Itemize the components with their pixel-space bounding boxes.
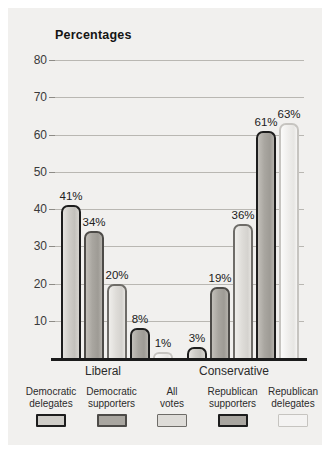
legend-swatch [36, 414, 66, 427]
legend-item[interactable]: Republicandelegates [264, 386, 322, 427]
legend-item[interactable]: Democraticsupporters [83, 386, 141, 427]
legend-label-line1: Republican [204, 386, 262, 398]
bar-value-label: 36% [231, 209, 254, 221]
bar: 34% [84, 231, 104, 358]
legend-item[interactable]: Democraticdelegates [22, 386, 80, 427]
legend-item[interactable]: Republicansupporters [204, 386, 262, 427]
legend: DemocraticdelegatesDemocraticsupportersA… [22, 386, 322, 427]
bar: 8% [130, 328, 150, 358]
axis-baseline [51, 358, 307, 361]
y-axis-tick-label: 80 [13, 55, 47, 65]
bar-value-label: 19% [208, 272, 231, 284]
y-tick-mark [49, 60, 55, 61]
legend-label-line2: delegates [22, 398, 80, 410]
legend-label-line2: supporters [83, 398, 141, 410]
legend-swatch [97, 414, 127, 427]
legend-swatch [157, 414, 187, 427]
y-axis-tick-label: 30 [13, 241, 47, 251]
y-axis-tick-label: 50 [13, 167, 47, 177]
bar-value-label: 8% [132, 313, 149, 325]
y-tick-mark [49, 321, 55, 322]
legend-label-line1: Democratic [22, 386, 80, 398]
bar: 63% [279, 123, 299, 358]
y-tick-mark [49, 172, 55, 173]
legend-label-line1: All [143, 386, 201, 398]
legend-swatch [278, 414, 308, 427]
legend-label-line2: votes [143, 398, 201, 410]
bar: 20% [107, 284, 127, 359]
y-axis-tick-label: 20 [13, 279, 47, 289]
bar-value-label: 3% [189, 332, 206, 344]
legend-swatch [218, 414, 248, 427]
bar-value-label: 20% [105, 269, 128, 281]
y-axis-tick-label: 60 [13, 130, 47, 140]
bar: 19% [210, 287, 230, 358]
y-tick-mark [49, 135, 55, 136]
y-tick-mark [49, 209, 55, 210]
gridline [55, 60, 304, 61]
bar-value-label: 41% [59, 190, 82, 202]
legend-item[interactable]: Allvotes [143, 386, 201, 427]
bar: 36% [233, 224, 253, 358]
bar: 61% [256, 131, 276, 358]
legend-label-line2: supporters [204, 398, 262, 410]
legend-label-line1: Republican [264, 386, 322, 398]
bar-value-label: 61% [254, 116, 277, 128]
y-axis-tick-label: 10 [13, 316, 47, 326]
bar-value-label: 34% [82, 216, 105, 228]
y-tick-mark [49, 246, 55, 247]
y-tick-mark [49, 97, 55, 98]
chart-panel: Percentages 1020304050607080 41%34%20%8%… [8, 8, 322, 445]
bar: 41% [61, 205, 81, 358]
group-label-liberal: Liberal [85, 364, 121, 378]
group-label-conservative: Conservative [199, 364, 269, 378]
gridline [55, 97, 304, 98]
chart-title: Percentages [55, 28, 132, 42]
y-axis-tick-label: 70 [13, 92, 47, 102]
plot-area: 1020304050607080 41%34%20%8%1%3%19%36%61… [55, 60, 304, 358]
y-tick-mark [49, 284, 55, 285]
bar: 3% [187, 347, 207, 358]
legend-label-line2: delegates [264, 398, 322, 410]
bar-value-label: 1% [155, 337, 172, 349]
legend-label-line1: Democratic [83, 386, 141, 398]
bar-value-label: 63% [277, 108, 300, 120]
y-axis-tick-label: 40 [13, 204, 47, 214]
